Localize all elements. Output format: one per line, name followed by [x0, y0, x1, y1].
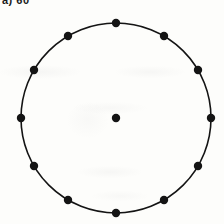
circle-point-6: [112, 209, 120, 217]
circle-point-3: [207, 114, 215, 122]
circle-point-10: [30, 66, 38, 74]
circle-point-4: [194, 162, 202, 170]
circle-point-1: [160, 32, 168, 40]
circle-point-9: [17, 114, 25, 122]
circle-figure: a) 60: [0, 0, 224, 224]
circle-point-8: [30, 162, 38, 170]
circle-point-5: [160, 196, 168, 204]
centre-point-group: [112, 114, 120, 122]
circle-diagram-svg: [0, 0, 224, 224]
circle-point-2: [194, 66, 202, 74]
circle-point-7: [64, 196, 72, 204]
circle-point-11: [64, 32, 72, 40]
circle-point-12: [112, 19, 120, 27]
centre-point-centre: [112, 114, 120, 122]
